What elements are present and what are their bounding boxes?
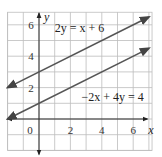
y-tick-label: 2 xyxy=(28,82,34,94)
line-chart: 0246246 x y 2y = x + 6 −2x + 4y = 4 xyxy=(0,0,162,157)
y-tick-label: 6 xyxy=(28,19,34,31)
x-axis-label: x xyxy=(147,123,154,137)
x-tick-label: 4 xyxy=(99,124,105,136)
x-tick-label: 0 xyxy=(27,124,33,136)
y-axis-label: y xyxy=(43,10,50,24)
x-tick-label: 2 xyxy=(68,124,74,136)
equation-label-2: −2x + 4y = 4 xyxy=(81,90,143,104)
x-tick-label: 6 xyxy=(130,124,136,136)
tick-labels: 0246246 xyxy=(27,19,136,136)
y-tick-label: 4 xyxy=(28,50,34,62)
equation-label-1: 2y = x + 6 xyxy=(55,21,105,35)
